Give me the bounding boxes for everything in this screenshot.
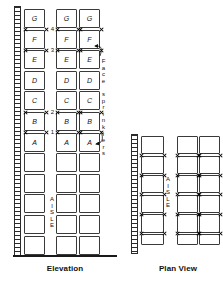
plan-sprinkler-mark [197,173,202,178]
plan-aisle-label: AISLE [164,176,172,209]
plan-sprinkler-mark [139,153,144,158]
plan-storage-box [177,136,198,154]
plan-sprinkler-mark [162,153,167,158]
plan-storage-box [177,214,198,232]
plan-sprinkler-mark [139,231,144,236]
plan-view-caption: Plan View [140,264,216,273]
vtext-char: E [164,202,172,209]
plan-sprinkler-mark [139,192,144,197]
plan-storage-box [199,175,220,193]
plan-storage-box [177,234,198,245]
figure-canvas: GFEDCBAGFEDCBAGFEDCBA 4321 AISLE Face sp… [0,0,223,281]
plan-storage-box [141,175,164,193]
plan-sprinkler-mark [197,212,202,217]
plan-sprinkler-mark [175,192,180,197]
plan-storage-box [199,156,220,174]
plan-sprinkler-mark [139,212,144,217]
plan-storage-box [141,195,164,213]
plan-storage-box [199,214,220,232]
elevation-caption: Elevation [24,264,106,273]
plan-sprinkler-mark [197,231,202,236]
plan-storage-box [199,136,220,154]
plan-sprinkler-mark [175,173,180,178]
plan-storage-box [199,234,220,245]
plan-sprinkler-mark [218,173,223,178]
plan-storage-box [141,234,164,245]
plan-sprinkler-mark [162,212,167,217]
plan-sprinkler-mark [218,231,223,236]
plan-sprinkler-mark [197,192,202,197]
plan-storage-box [141,214,164,232]
plan-storage-box [141,156,164,174]
plan-sprinkler-mark [175,231,180,236]
plan-wall [131,134,138,254]
plan-sprinkler-mark [218,192,223,197]
plan-sprinkler-mark [139,173,144,178]
plan-storage-box [177,175,198,193]
plan-sprinkler-mark [218,153,223,158]
plan-storage-box [199,195,220,213]
plan-storage-box [141,136,164,154]
plan-sprinkler-mark [162,231,167,236]
plan-sprinkler-mark [197,153,202,158]
plan-storage-box [177,156,198,174]
plan-storage-box [177,195,198,213]
plan-sprinkler-mark [218,212,223,217]
plan-sprinkler-mark [175,153,180,158]
plan-sprinkler-mark [175,212,180,217]
